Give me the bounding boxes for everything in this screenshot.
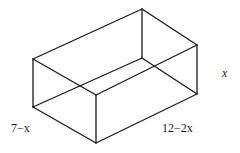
length-label: 12−2x [162,121,193,136]
edge-top-left [33,9,142,59]
edge-top-front [96,45,197,95]
height-label: x [222,66,227,81]
edge-bottom-left [33,107,96,143]
box-diagram: x 7−x 12−2x [0,0,240,153]
edge-bottom-back-right [142,58,197,94]
box-wireframe [0,0,240,153]
depth-label: 7−x [11,121,30,136]
edge-left-front-top [33,59,96,95]
edge-top-right [142,9,197,45]
edge-bottom-back-left [33,58,142,107]
